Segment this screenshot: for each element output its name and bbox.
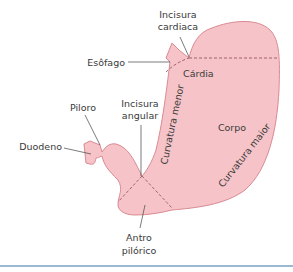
label-duodeno: Duodeno	[19, 141, 62, 152]
label-piloro: Piloro	[70, 102, 96, 113]
label-esofago: Esôfago	[87, 57, 125, 68]
label-cardia: Cárdia	[183, 68, 214, 79]
label-incisura-angular-1: Incisura	[121, 98, 158, 109]
stomach-outline	[84, 22, 279, 216]
leader-piloro	[85, 115, 100, 145]
label-corpo: Corpo	[218, 122, 246, 133]
label-antro-pilorico-2: pilórico	[122, 245, 157, 256]
bottom-rule	[0, 265, 293, 267]
label-antro-pilorico-1: Antro	[126, 232, 152, 243]
label-incisura-angular-2: angular	[122, 110, 158, 121]
label-incisura-cardiaca-2: cardiaca	[158, 21, 198, 32]
stomach-diagram: Incisura cardiaca Esôfago Cárdia Piloro …	[0, 0, 293, 272]
label-incisura-cardiaca-1: Incisura	[159, 9, 196, 20]
